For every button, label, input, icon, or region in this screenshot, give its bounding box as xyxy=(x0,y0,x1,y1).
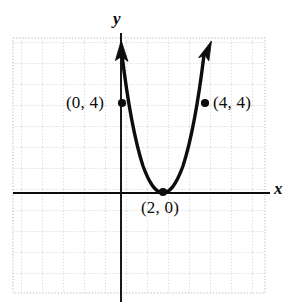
grid-layer xyxy=(13,38,265,293)
graph-figure: (0, 4) (4, 4) (2, 0) y x xyxy=(0,0,296,307)
y-axis-label: y xyxy=(113,10,121,27)
point-label-0-4: (0, 4) xyxy=(66,94,104,111)
x-axis-label: x xyxy=(274,180,283,197)
point-marker-y-intercept xyxy=(118,99,126,107)
coordinate-plane-svg xyxy=(0,0,296,307)
point-marker-vertex xyxy=(159,188,167,196)
point-label-2-0: (2, 0) xyxy=(141,199,179,216)
point-marker-right xyxy=(201,99,209,107)
point-label-4-4: (4, 4) xyxy=(213,94,251,111)
